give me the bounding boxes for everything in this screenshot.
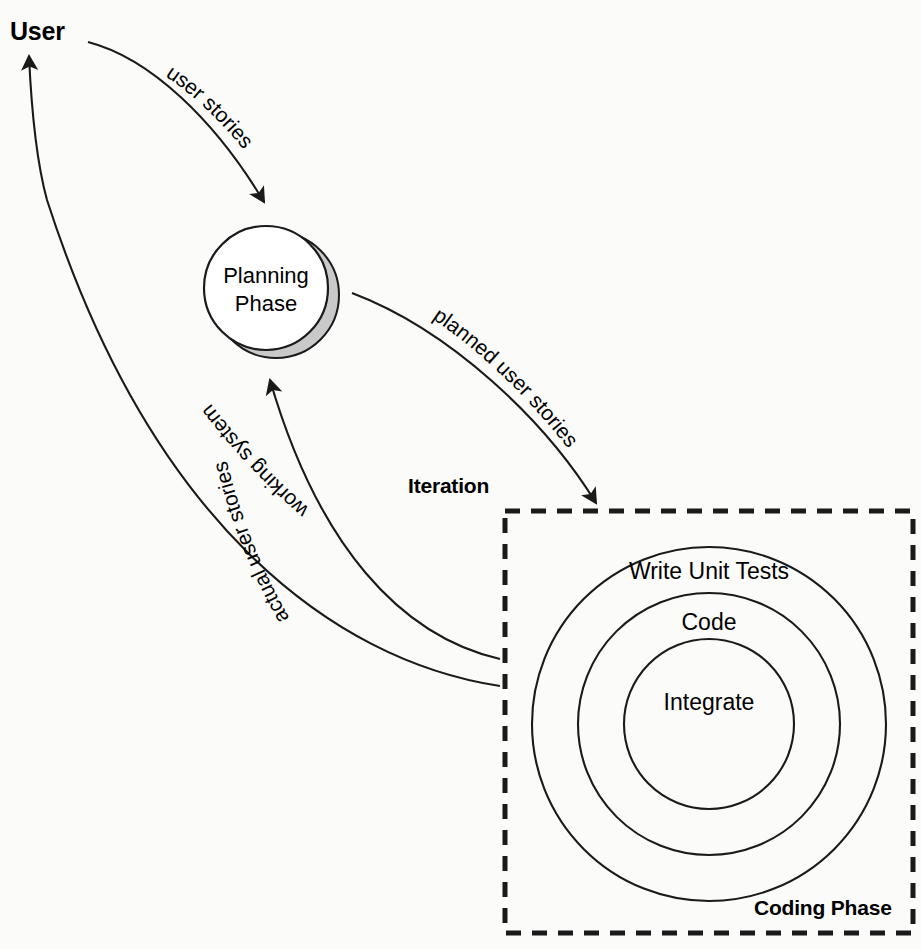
edge-label-planned-user-stories: planned user stories [430,303,583,452]
planning-phase-label-line2: Phase [235,291,297,316]
ring-label-write-unit-tests: Write Unit Tests [629,558,789,584]
ring-label-code: Code [682,609,737,635]
edge-label-working-system: working system [196,401,313,524]
planning-phase-label-line1: Planning [223,263,309,288]
edge-label-user-stories: user stories [163,60,259,152]
iteration-label: Iteration [408,475,489,496]
ring-label-integrate: Integrate [664,689,755,715]
diagram-canvas: user stories planned user stories actual… [0,0,921,949]
user-label: User [10,19,65,44]
coding-phase-label: Coding Phase [754,897,892,918]
